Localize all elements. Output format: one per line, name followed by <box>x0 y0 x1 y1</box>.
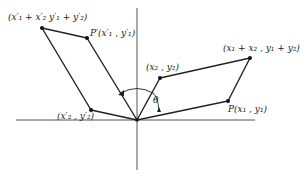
point-sum <box>248 56 252 60</box>
vector-p1-rotated <box>87 38 137 120</box>
edge-p2r-to-sumr <box>42 28 91 110</box>
point-p2 <box>158 76 162 80</box>
label-p1: P(x₁ , y₁) <box>227 104 268 114</box>
rotation-diagram: P(x₁ , y₁) (x₂ , y₂) (x₁ + x₂ , y₁ + y₂)… <box>0 0 306 179</box>
point-sum-rotated <box>40 26 44 30</box>
point-p1 <box>226 99 230 103</box>
vector-p1 <box>137 101 228 120</box>
label-p2-rotated: (x′₂ , y′₂) <box>57 111 95 121</box>
label-sum: (x₁ + x₂ , y₁ + y₂) <box>223 43 300 53</box>
label-p1-rotated: P′(x′₁ , y′₁) <box>89 28 136 38</box>
label-sum-rotated: (x′₁ + x′₂ y′₁ + y′₂) <box>8 12 88 22</box>
label-p2: (x₂ , y₂) <box>146 62 179 72</box>
origin-point <box>135 118 139 122</box>
edge-p1-to-sum <box>228 58 250 101</box>
vector-p2-rotated <box>91 110 137 120</box>
edge-p1r-to-sumr <box>42 28 87 38</box>
arc-arrowhead-right-icon <box>157 107 161 112</box>
point-p1-rotated <box>85 36 89 40</box>
label-theta: θ <box>153 95 159 105</box>
